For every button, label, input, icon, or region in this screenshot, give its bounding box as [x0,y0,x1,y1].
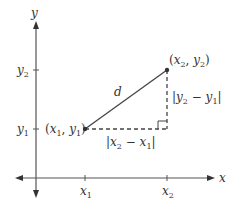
distance-label: d [114,85,122,99]
x2-tick-label: x2 [162,184,174,200]
diagram-svg: y x y2 y1 x1 x2 (x1, y1) (x2, y2) d |x2 … [0,0,234,210]
y2-tick-label: y2 [16,63,29,79]
vertical-leg-label: |y2 − y1| [172,90,222,106]
distance-segment [85,70,167,129]
x-axis [15,175,215,181]
y-axis-down-arrow-icon [33,190,39,198]
point-2-label: (x2, y2) [169,53,210,69]
y-axis-up-arrow-icon [33,21,39,29]
point-1-label: (x1, y1) [45,122,86,138]
right-angle-marker [158,121,167,129]
x1-tick-label: x1 [80,184,92,200]
y1-tick-label: y1 [16,122,29,138]
point-2-dot [165,68,169,72]
horizontal-leg-label: |x2 − x1| [106,135,156,151]
x-axis-left-arrow-icon [15,175,23,181]
x-axis-right-arrow-icon [207,175,215,181]
y-axis [33,21,39,198]
x-axis-label: x [219,171,226,185]
distance-diagram: y x y2 y1 x1 x2 (x1, y1) (x2, y2) d |x2 … [0,0,234,210]
y-axis-label: y [30,6,38,20]
